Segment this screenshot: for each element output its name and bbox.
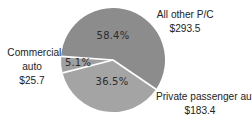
slice-label-all-other: All other P/C $293.5: [157, 7, 213, 35]
slice-label-private-auto: Private passenger auto $183.4: [156, 89, 244, 117]
slice-label-commercial-auto: Commercial auto $25.7: [7, 45, 56, 87]
slice-name: All other P/C: [157, 7, 213, 21]
percent-label-commercial-auto: 5.1%: [65, 57, 91, 68]
slice-value: $25.7: [7, 73, 56, 87]
slice-name: Private passenger auto: [156, 89, 244, 103]
slice-value: $183.4: [156, 103, 244, 117]
percent-label-private-auto: 36.5%: [96, 76, 129, 87]
slice-name-line2: auto: [7, 59, 56, 73]
slice-value: $293.5: [157, 21, 213, 35]
slice-name-line1: Commercial: [7, 45, 56, 59]
percent-label-all-other: 58.4%: [97, 30, 130, 41]
